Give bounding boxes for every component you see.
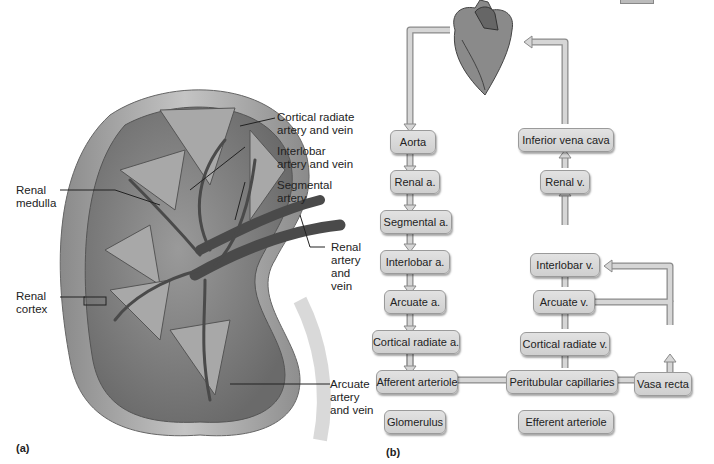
flow-box-glomerulus: Glomerulus	[384, 410, 446, 434]
kidney-illustration-panel: Cortical radiate artery and vein Interlo…	[0, 0, 390, 464]
label-arcuate-artery-vein: Arcuate artery and vein	[330, 378, 373, 417]
flow-box-interlobar-vein: Interlobar v.	[530, 253, 600, 277]
label-interlobar-artery-vein: Interlobar artery and vein	[277, 145, 353, 171]
flow-box-cortical-radiate-vein: Cortical radiate v.	[520, 332, 610, 356]
label-cortical-radiate-artery-vein: Cortical radiate artery and vein	[277, 111, 354, 137]
label-segmental-artery: Segmental artery	[277, 179, 332, 205]
flow-box-efferent-arteriole: Efferent arteriole	[518, 410, 614, 434]
flow-box-renal-artery: Renal a.	[390, 170, 440, 194]
label-renal-cortex: Renal cortex	[16, 290, 47, 316]
panel-b-letter: (b)	[386, 446, 400, 458]
flow-box-cortical-radiate-artery: Cortical radiate a.	[372, 330, 460, 354]
flow-box-peritubular-capillaries: Peritubular capillaries	[506, 370, 618, 394]
label-renal-medulla: Renal medulla	[16, 184, 56, 210]
heart-illustration	[454, 0, 513, 95]
flow-box-renal-vein: Renal v.	[540, 170, 590, 194]
label-renal-artery-vein: Renal artery and vein	[331, 241, 361, 293]
flow-box-vasa-recta: Vasa recta	[634, 372, 692, 396]
flow-box-aorta: Aorta	[390, 130, 436, 154]
flow-box-afferent-arteriole: Afferent arteriole	[376, 370, 458, 394]
flow-box-arcuate-artery: Arcuate a.	[384, 290, 446, 314]
flow-box-segmental-artery: Segmental a.	[380, 210, 452, 234]
flow-box-inferior-vena-cava: Inferior vena cava	[518, 128, 614, 152]
panel-a-letter: (a)	[16, 442, 29, 454]
flow-box-interlobar-artery: Interlobar a.	[380, 250, 450, 274]
flow-box-arcuate-vein: Arcuate v.	[533, 290, 595, 314]
blood-flow-flowchart-panel: Aorta Renal a. Segmental a. Interlobar a…	[380, 0, 714, 464]
